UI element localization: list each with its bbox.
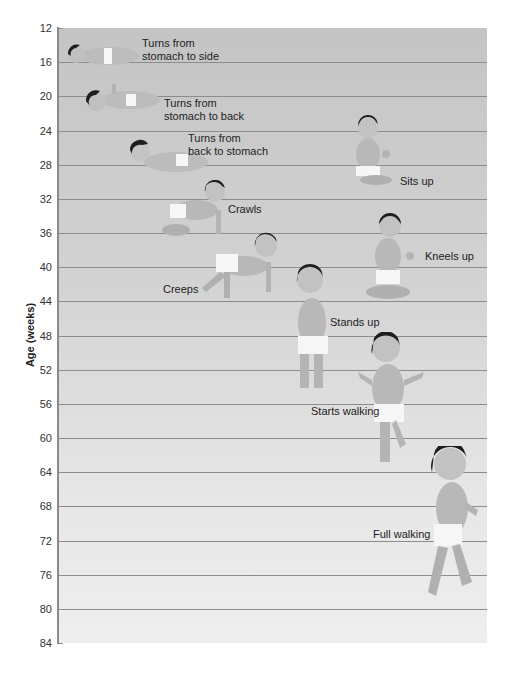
y-tick (58, 165, 63, 166)
y-tick-label: 56 (22, 398, 52, 410)
y-tick (58, 199, 63, 200)
y-tick (58, 643, 63, 644)
milestone-chart: 12162024283236404448525660646872768084 A… (0, 0, 511, 673)
y-tick (58, 267, 63, 268)
y-tick-label: 68 (22, 500, 52, 512)
y-tick-label: 40 (22, 261, 52, 273)
baby-starting-walk-icon (356, 332, 428, 472)
y-tick (58, 131, 63, 132)
gridline (58, 131, 487, 132)
baby-lying-side-icon (64, 42, 144, 70)
y-tick (58, 28, 63, 29)
y-tick (58, 609, 63, 610)
label-sits-up: Sits up (400, 175, 434, 188)
label-kneels-up: Kneels up (425, 250, 474, 263)
y-tick (58, 575, 63, 576)
y-tick-label: 20 (22, 90, 52, 102)
y-tick (58, 404, 63, 405)
y-tick (58, 233, 63, 234)
y-tick-label: 60 (22, 432, 52, 444)
baby-turning-back-icon (82, 80, 164, 118)
baby-sitting-icon (352, 114, 396, 188)
y-tick (58, 506, 63, 507)
gridline (58, 165, 487, 166)
y-tick-label: 64 (22, 466, 52, 478)
y-tick (58, 301, 63, 302)
y-tick-label: 28 (22, 159, 52, 171)
label-creeps: Creeps (163, 283, 198, 296)
gridline (58, 609, 487, 610)
y-tick-label: 24 (22, 125, 52, 137)
y-tick-label: 84 (22, 637, 52, 649)
baby-standing-icon (290, 264, 340, 394)
label-stands-up: Stands up (330, 316, 380, 329)
baby-kneeling-icon (362, 212, 422, 302)
y-tick (58, 96, 63, 97)
y-tick-label: 16 (22, 56, 52, 68)
y-tick-label: 12 (22, 22, 52, 34)
baby-full-walking-icon (420, 446, 484, 602)
y-tick (58, 472, 63, 473)
label-turns-back: Turns from stomach to back (164, 97, 244, 123)
y-tick-label: 80 (22, 603, 52, 615)
label-turns-stomach: Turns from back to stomach (188, 132, 268, 158)
label-full-walking: Full walking (373, 528, 430, 541)
y-tick (58, 370, 63, 371)
y-tick-label: 72 (22, 535, 52, 547)
y-tick-label: 76 (22, 569, 52, 581)
y-axis-label: Age (weeks) (24, 303, 36, 367)
y-tick (58, 336, 63, 337)
y-tick-label: 36 (22, 227, 52, 239)
y-tick (58, 541, 63, 542)
baby-creeping-icon (196, 232, 286, 304)
y-tick (58, 62, 63, 63)
y-tick-label: 32 (22, 193, 52, 205)
y-tick (58, 438, 63, 439)
gridline (58, 199, 487, 200)
label-turns-side: Turns from stomach to side (142, 37, 219, 63)
label-starts-walking: Starts walking (311, 405, 379, 418)
label-crawls: Crawls (228, 203, 262, 216)
